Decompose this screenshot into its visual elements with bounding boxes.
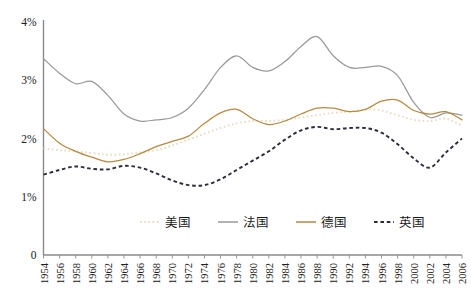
series-line-united-kingdom	[44, 127, 463, 186]
x-tick-label: 1974	[199, 262, 210, 284]
x-tick-label: 1978	[232, 263, 243, 284]
y-tick-label: 3%	[21, 74, 37, 86]
x-tick-label: 1954	[39, 262, 50, 284]
series-line-germany	[44, 99, 463, 162]
y-tick-label: 4%	[21, 16, 37, 28]
series-line-france	[44, 36, 463, 121]
x-tick-label: 1998	[393, 263, 404, 284]
legend-label-2[interactable]: 法国	[243, 215, 269, 230]
x-tick-label: 1992	[344, 263, 355, 284]
chart-canvas: 4%3%2%1%01954195619581960196219641966196…	[0, 0, 471, 306]
x-tick-label: 1960	[87, 263, 98, 284]
x-tick-label: 1956	[55, 263, 66, 284]
x-tick-label: 1966	[135, 263, 146, 284]
x-tick-label: 1976	[216, 263, 227, 284]
series-line-united-states	[44, 109, 463, 155]
x-tick-label: 1958	[71, 263, 82, 284]
x-tick-label: 2006	[457, 263, 468, 284]
x-tick-label: 1962	[103, 263, 114, 284]
y-tick-label: 0	[31, 249, 37, 261]
legend-label-4[interactable]: 英国	[399, 215, 425, 230]
x-tick-label: 1970	[167, 263, 178, 284]
x-tick-label: 1964	[119, 262, 130, 284]
x-tick-label: 1982	[264, 263, 275, 284]
y-tick-label: 1%	[21, 191, 37, 203]
x-tick-label: 2000	[409, 263, 420, 284]
x-tick-label: 1994	[360, 262, 371, 284]
line-chart: 4%3%2%1%01954195619581960196219641966196…	[0, 0, 471, 306]
legend-label-1[interactable]: 美国	[165, 215, 191, 230]
x-tick-label: 1972	[183, 263, 194, 284]
x-tick-label: 1986	[296, 263, 307, 284]
x-tick-label: 1980	[248, 263, 259, 284]
y-tick-label: 2%	[21, 133, 37, 145]
x-tick-label: 1988	[312, 263, 323, 284]
x-tick-label: 1968	[151, 263, 162, 284]
x-tick-label: 1984	[280, 262, 291, 284]
x-tick-label: 1990	[328, 263, 339, 284]
legend-label-3[interactable]: 德国	[321, 215, 347, 230]
x-tick-label: 1996	[377, 263, 388, 284]
x-tick-label: 2002	[425, 263, 436, 284]
x-tick-label: 2004	[441, 262, 452, 284]
